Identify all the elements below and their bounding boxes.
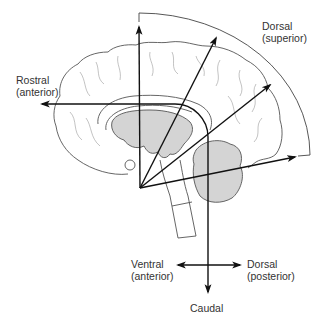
label-ventral-anterior: Ventral (anterior) [131, 258, 174, 282]
pituitary-shape [125, 160, 135, 170]
label-dorsal-posterior: Dorsal (posterior) [247, 258, 295, 282]
label-caudal: Caudal [190, 302, 223, 314]
vertical-dorsal-arrow [139, 27, 140, 188]
cerebellum-region [193, 141, 242, 203]
brainstem-outline [160, 160, 196, 238]
corpus-callosum-region [112, 110, 193, 158]
label-dorsal-superior: Dorsal (superior) [262, 20, 307, 44]
label-rostral: Rostral (anterior) [16, 74, 59, 98]
